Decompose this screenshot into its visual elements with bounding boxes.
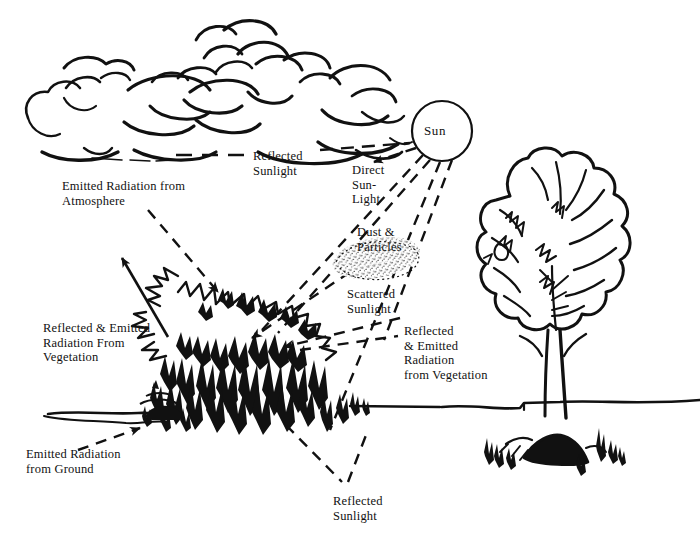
label-reflected-sunlight-top: Reflected Sunlight <box>253 149 303 178</box>
figure-radiation-paths: Sun Reflected Sunlight Direct Sun- Light… <box>0 0 700 539</box>
label-scattered-sunlight: Scattered Sunlight <box>347 287 395 316</box>
label-emitted-radiation-atmosphere: Emitted Radiation from Atmosphere <box>62 179 185 208</box>
label-dust-particles: Dust & Particles <box>357 225 402 254</box>
label-emitted-radiation-ground: Emitted Radiation from Ground <box>26 447 121 476</box>
label-direct-sunlight: Direct Sun- Light <box>352 163 384 207</box>
label-reflected-sunlight-bottom: Reflected Sunlight <box>333 494 383 523</box>
label-reflected-emitted-vegetation-right: Reflected & Emitted Radiation from Veget… <box>404 324 488 382</box>
label-reflected-emitted-vegetation-left: Reflected & Emitted Radiation From Veget… <box>43 321 150 365</box>
label-sun: Sun <box>424 124 446 139</box>
figure-caption <box>30 527 670 535</box>
